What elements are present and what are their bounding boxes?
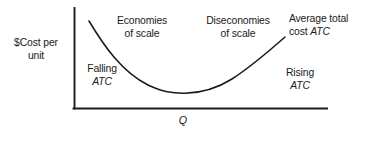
- diseconomies-line2: of scale: [197, 27, 279, 40]
- x-axis-label: Q: [162, 113, 205, 126]
- curve-name-line1: Average total: [289, 12, 348, 24]
- curve-name-line2: cost ATC: [289, 25, 367, 38]
- rising-line1: Rising: [286, 66, 314, 78]
- annotation-average-total-cost: Average total cost ATC: [289, 12, 367, 39]
- economies-line2: of scale: [107, 27, 178, 40]
- falling-atc: ATC: [82, 75, 123, 88]
- annotation-rising-atc: Rising ATC: [280, 66, 321, 93]
- curve-name-atc: ATC: [310, 25, 330, 37]
- y-axis-label: $Cost per unit: [4, 36, 67, 63]
- y-axis-label-line2: unit: [4, 49, 67, 62]
- atc-curve-figure: $Cost per unit Q Economies of scale Dise…: [0, 0, 372, 143]
- annotation-falling-atc: Falling ATC: [82, 62, 123, 89]
- curve-name-prefix: cost: [289, 25, 310, 37]
- annotation-economies-of-scale: Economies of scale: [107, 14, 178, 41]
- rising-atc: ATC: [280, 79, 321, 92]
- diseconomies-line1: Diseconomies: [206, 14, 270, 26]
- x-axis-label-text: Q: [179, 113, 187, 126]
- falling-line1: Falling: [87, 62, 117, 74]
- economies-line1: Economies: [117, 14, 167, 26]
- annotation-diseconomies-of-scale: Diseconomies of scale: [197, 14, 279, 41]
- y-axis-label-line1: $Cost per: [14, 36, 58, 48]
